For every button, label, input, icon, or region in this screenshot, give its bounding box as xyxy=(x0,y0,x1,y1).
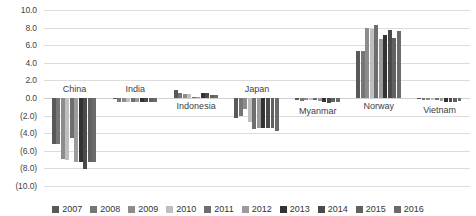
bar xyxy=(374,25,378,98)
bar xyxy=(370,29,374,98)
bar xyxy=(304,98,308,100)
legend-item[interactable]: 2016 xyxy=(394,204,424,214)
legend-swatch-icon xyxy=(394,206,401,213)
legend-item[interactable]: 2014 xyxy=(318,204,348,214)
y-axis-tick-label: 4.0 xyxy=(25,58,37,68)
legend-item[interactable]: 2008 xyxy=(90,204,120,214)
legend-swatch-icon xyxy=(52,206,59,213)
bar xyxy=(431,98,435,100)
y-axis-tick-label: (10.0) xyxy=(15,181,37,191)
category-label: Indonesia xyxy=(177,101,216,111)
y-axis-tick-label: 0.0 xyxy=(25,93,37,103)
plot-area: ChinaIndiaIndonesiaJapanMyanmarNorwayVie… xyxy=(44,10,470,186)
bar-group: India xyxy=(105,10,166,186)
bar xyxy=(271,98,275,128)
legend-swatch-icon xyxy=(128,206,135,213)
legend-label: 2013 xyxy=(290,204,310,214)
bar xyxy=(318,98,322,101)
bar xyxy=(266,98,270,128)
y-axis-tick-label: (2.0) xyxy=(20,111,37,121)
legend-label: 2007 xyxy=(62,204,82,214)
legend-swatch-icon xyxy=(356,206,363,213)
bar xyxy=(140,98,144,102)
legend-label: 2016 xyxy=(404,204,424,214)
bar xyxy=(117,98,121,102)
bar xyxy=(144,98,148,102)
bar-group-bars xyxy=(166,10,227,186)
bar xyxy=(426,98,430,100)
bar xyxy=(275,98,279,131)
y-axis: 10.08.06.04.02.00.0(2.0)(4.0)(6.0)(8.0)(… xyxy=(0,10,40,186)
bar xyxy=(444,98,448,102)
bar-group-bars xyxy=(409,10,470,186)
legend-swatch-icon xyxy=(318,206,325,213)
bar xyxy=(88,98,92,162)
legend-item[interactable]: 2015 xyxy=(356,204,386,214)
bar xyxy=(261,98,265,128)
bar xyxy=(79,98,83,162)
y-axis-tick-label: (8.0) xyxy=(20,163,37,173)
y-axis-tick-label: 2.0 xyxy=(25,75,37,85)
legend-label: 2011 xyxy=(214,204,233,214)
category-label: Japan xyxy=(245,84,270,94)
legend-label: 2010 xyxy=(176,204,196,214)
bar-group: China xyxy=(44,10,105,186)
legend-item[interactable]: 2012 xyxy=(242,204,272,214)
bar xyxy=(131,98,135,102)
legend-label: 2012 xyxy=(252,204,272,214)
category-label: China xyxy=(63,84,87,94)
bar xyxy=(356,51,360,98)
y-axis-tick-label: (4.0) xyxy=(20,128,37,138)
legend-swatch-icon xyxy=(90,206,97,213)
bar-group-bars xyxy=(44,10,105,186)
bar xyxy=(257,98,261,128)
bar xyxy=(135,98,139,102)
bar xyxy=(174,90,178,98)
bar xyxy=(361,51,365,98)
bar-group: Indonesia xyxy=(166,10,227,186)
bar xyxy=(65,98,69,160)
bar xyxy=(322,98,326,102)
bar xyxy=(234,98,238,118)
y-axis-tick-label: 6.0 xyxy=(25,40,37,50)
category-label: Myanmar xyxy=(299,106,337,116)
legend-item[interactable]: 2010 xyxy=(166,204,196,214)
bar xyxy=(365,28,369,98)
bar xyxy=(449,98,453,102)
bar xyxy=(379,39,383,98)
y-axis-tick-label: (6.0) xyxy=(20,146,37,156)
bar-group-bars xyxy=(227,10,288,186)
bar xyxy=(417,98,421,99)
bar-group: Norway xyxy=(348,10,409,186)
bar xyxy=(178,93,182,98)
bar xyxy=(83,98,87,169)
chart-legend: 2007200820092010201120122013201420152016 xyxy=(0,204,476,214)
bar xyxy=(183,94,187,98)
bar-group: Japan xyxy=(227,10,288,186)
bar xyxy=(61,98,65,159)
legend-label: 2008 xyxy=(100,204,120,214)
legend-swatch-icon xyxy=(242,206,249,213)
legend-item[interactable]: 2009 xyxy=(128,204,158,214)
category-label: India xyxy=(126,84,146,94)
bar-group-bars xyxy=(348,10,409,186)
bar xyxy=(196,97,200,98)
bar xyxy=(149,98,153,102)
bar xyxy=(52,98,56,144)
bar xyxy=(201,93,205,98)
legend-swatch-icon xyxy=(204,206,211,213)
bar xyxy=(210,95,214,98)
legend-item[interactable]: 2007 xyxy=(52,204,82,214)
bar xyxy=(248,98,252,122)
bar-group-bars xyxy=(287,10,348,186)
bar xyxy=(239,98,243,116)
legend-item[interactable]: 2011 xyxy=(204,204,233,214)
category-label: Vietnam xyxy=(423,105,456,115)
bar xyxy=(126,98,130,102)
bar xyxy=(383,35,387,98)
bar xyxy=(458,98,462,101)
bar xyxy=(313,98,317,100)
y-axis-tick-label: 8.0 xyxy=(25,23,37,33)
y-axis-tick-label: 10.0 xyxy=(21,5,37,15)
legend-item[interactable]: 2013 xyxy=(280,204,310,214)
